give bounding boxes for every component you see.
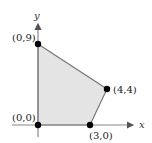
vertex-label: (0,9): [12, 32, 36, 43]
vertex-point: [87, 122, 93, 128]
vertex-point: [35, 122, 41, 128]
x-axis-label: x: [139, 119, 145, 130]
vertex-point: [104, 86, 110, 92]
feasible-region: [38, 44, 107, 125]
vertex-label: (0,0): [12, 112, 36, 123]
feasible-region-diagram: x y (0,0) (0,9) (4,4) (3,0): [0, 0, 152, 143]
vertex-label: (4,4): [113, 84, 137, 95]
y-axis-label: y: [33, 10, 40, 21]
vertex-point: [35, 41, 41, 47]
vertex-label: (3,0): [89, 130, 113, 141]
